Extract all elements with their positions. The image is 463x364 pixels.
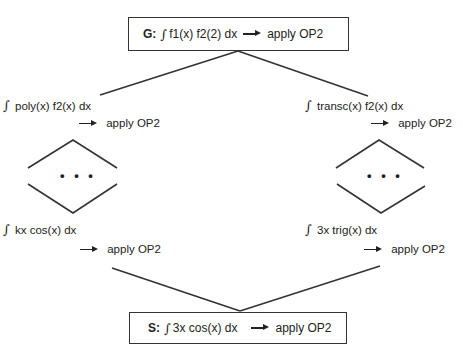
- right-arrow-icon: [251, 324, 269, 332]
- edge-top-to-right: [238, 51, 368, 96]
- left-first-expression-row: ∫ poly(x) f2(x) dx: [3, 98, 91, 113]
- integral-icon: ∫: [3, 98, 10, 113]
- solution-node: S: ∫ 3x cos(x) dx apply OP2: [129, 312, 347, 344]
- right-arrow-icon: [79, 120, 97, 128]
- right-diamond-bottom: [337, 184, 425, 213]
- solution-expression: 3x cos(x) dx: [173, 321, 238, 335]
- left-diamond-top: [28, 140, 117, 168]
- edge-right-to-bottom: [240, 266, 380, 311]
- right-last-action: apply OP2: [391, 243, 445, 255]
- right-first-expression: transc(x) f2(x) dx: [317, 100, 403, 112]
- right-arrow-icon: [364, 246, 382, 254]
- integral-icon: ∫: [3, 222, 10, 237]
- right-first-expression-row: ∫ transc(x) f2(x) dx: [305, 98, 403, 113]
- right-arrow-icon: [80, 246, 98, 254]
- solution-tag: S:: [148, 321, 160, 335]
- left-first-expression: poly(x) f2(x) dx: [15, 100, 91, 112]
- right-arrow-icon: [243, 30, 261, 38]
- left-diamond-bottom: [28, 184, 117, 213]
- goal-node: G: ∫ f1(x) f2(2) dx apply OP2: [128, 17, 349, 51]
- left-last-action-row: apply OP2: [80, 243, 161, 255]
- right-first-action-row: apply OP2: [371, 117, 452, 129]
- left-ellipsis: • • •: [60, 168, 96, 183]
- integral-icon: ∫: [160, 27, 167, 42]
- goal-expression: f1(x) f2(2) dx: [169, 27, 237, 41]
- goal-action: apply OP2: [267, 27, 323, 41]
- left-first-action-row: apply OP2: [79, 117, 160, 129]
- edge-left-to-bottom: [112, 268, 240, 311]
- left-first-action: apply OP2: [106, 117, 160, 129]
- solution-action: apply OP2: [275, 321, 331, 335]
- right-diamond-top: [336, 140, 424, 168]
- left-last-expression-row: ∫ kx cos(x) dx: [3, 222, 76, 237]
- right-arrow-icon: [371, 120, 389, 128]
- left-last-expression: kx cos(x) dx: [15, 224, 76, 236]
- right-last-expression: 3x trig(x) dx: [317, 224, 377, 236]
- integral-icon: ∫: [164, 321, 171, 336]
- right-last-action-row: apply OP2: [364, 243, 445, 255]
- edge-top-to-left: [100, 51, 238, 95]
- right-first-action: apply OP2: [398, 117, 452, 129]
- integral-icon: ∫: [305, 98, 312, 113]
- right-last-expression-row: ∫ 3x trig(x) dx: [305, 222, 377, 237]
- left-last-action: apply OP2: [107, 243, 161, 255]
- goal-tag: G:: [143, 27, 156, 41]
- right-ellipsis: • • •: [367, 168, 403, 183]
- integral-icon: ∫: [305, 222, 312, 237]
